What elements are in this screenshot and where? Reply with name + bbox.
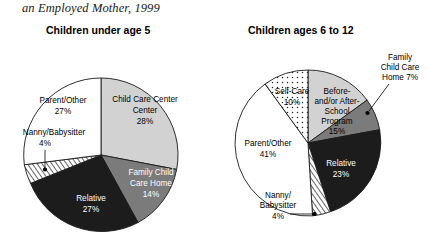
right-label-family-child-care-l2: Child Care: [381, 63, 420, 72]
right-label-nanny-pct: 4%: [272, 212, 284, 221]
right-label-relative-pct: 23%: [333, 170, 349, 179]
pie-charts-svg: Child Care Center Center 28% Family Chil…: [0, 0, 428, 247]
right-label-before-after-l1: Before-: [324, 87, 351, 96]
right-label-family-child-care-l3: Home 7%: [382, 73, 418, 82]
right-label-relative-name: Relative: [326, 159, 356, 168]
right-label-nanny-l1: Nanny/: [265, 191, 292, 200]
left-label-relative-pct: 27%: [83, 205, 99, 214]
left-label-parent-other-pct: 27%: [55, 107, 71, 116]
left-label-child-care-center-name2: Center: [133, 106, 158, 115]
left-label-family-child-care-home-pct: 14%: [143, 190, 159, 199]
right-family-callout-line: [369, 84, 389, 111]
right-nanny-callout-dot: [312, 212, 316, 216]
left-label-child-care-center-pct: 28%: [137, 117, 153, 126]
left-label-child-care-center-name: Child Care Center: [112, 95, 178, 104]
right-label-before-after-l2: and/or After-: [314, 97, 359, 106]
right-label-parent-other-pct: 41%: [260, 150, 276, 159]
left-pie-group: Child Care Center Center 28% Family Chil…: [23, 78, 178, 232]
left-nanny-callout-dot: [43, 167, 47, 171]
right-label-family-child-care-l1: Family: [388, 53, 413, 62]
right-label-before-after-l3: School: [324, 107, 349, 116]
right-label-before-after-l4: Program: [321, 117, 353, 126]
left-label-relative-name: Relative: [76, 194, 106, 203]
left-label-parent-other-name: Parent/Other: [40, 96, 87, 105]
right-pie-group: Before- and/or After- School Program 15%…: [235, 53, 420, 221]
right-family-callout-dot: [365, 111, 369, 115]
left-label-nanny-pct: 4%: [39, 139, 51, 148]
left-label-nanny-name: Nanny/Babysitter: [23, 128, 86, 137]
right-label-self-care-name: Self-Care: [275, 87, 310, 96]
left-label-family-child-care-home-l2: Care Home: [130, 179, 172, 188]
right-label-parent-other-name: Parent/Other: [245, 139, 292, 148]
left-slice-parent-other[interactable]: [24, 78, 101, 165]
chart-page: an Employed Mother, 1999 Children under …: [0, 0, 428, 247]
right-label-before-after-pct: 15%: [329, 127, 345, 136]
right-label-self-care-pct: 10%: [284, 98, 300, 107]
left-label-family-child-care-home-l1: Family Child: [128, 168, 173, 177]
right-label-nanny-l2: Babysitter: [260, 201, 297, 210]
